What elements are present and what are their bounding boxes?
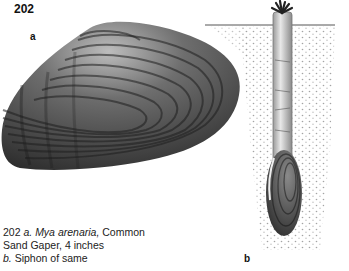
siphon-b-illustration	[205, 1, 335, 250]
plate-number: 202	[14, 2, 34, 16]
caption-b-marker: b.	[3, 252, 12, 264]
caption-line-3: b. Siphon of same	[3, 252, 145, 265]
figure-label-a: a	[30, 31, 36, 42]
caption-line-1: 202 a. Mya arenaria, Common	[3, 226, 145, 239]
figure-label-b: b	[244, 253, 250, 264]
caption-line-2: Sand Gaper, 4 inches	[3, 239, 145, 252]
figure-caption: 202 a. Mya arenaria, Common Sand Gaper, …	[3, 226, 145, 265]
caption-a-marker: a.	[23, 226, 32, 238]
shell-a-illustration	[2, 22, 240, 170]
caption-siphon-text: Siphon of same	[12, 252, 88, 264]
caption-common-name-start: Common	[99, 226, 145, 238]
caption-plate-number: 202	[3, 226, 23, 238]
caption-species-name: Mya arenaria,	[35, 226, 99, 238]
